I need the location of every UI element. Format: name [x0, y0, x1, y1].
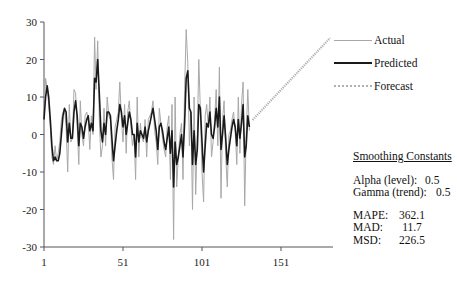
legend-item-actual: Actual: [334, 33, 405, 47]
forecast-line: [253, 38, 330, 120]
y-tick-label: 30: [26, 16, 38, 28]
stats-title: Smoothing Constants: [353, 150, 452, 163]
gamma-row: Gamma (trend): 0.5: [353, 186, 452, 199]
mape-row: MAPE: 362.1: [353, 209, 452, 222]
legend-label: Actual: [374, 34, 405, 46]
msd-row: MSD: 226.5: [353, 234, 452, 247]
axes: -30-20-100102030151101151: [22, 16, 333, 268]
y-tick-label: -10: [22, 166, 37, 178]
x-tick-label: 51: [118, 256, 129, 268]
mad-row: MAD: 11.7: [353, 221, 452, 234]
y-tick-label: 20: [26, 54, 38, 66]
predicted-line: [44, 60, 249, 188]
legend: Actual Predicted Forecast: [334, 0, 457, 100]
mad-label: MAD:: [353, 221, 393, 234]
mape-value: 362.1: [393, 209, 431, 222]
gamma-value: 0.5: [436, 186, 450, 199]
legend-item-predicted: Predicted: [334, 56, 417, 70]
legend-label: Predicted: [374, 57, 417, 69]
alpha-row: Alpha (level): 0.5: [353, 174, 452, 187]
forecast-line-swatch-icon: [334, 85, 372, 87]
y-tick-label: 0: [32, 129, 38, 141]
x-tick-label: 1: [41, 256, 47, 268]
msd-value: 226.5: [393, 234, 431, 247]
legend-label: Forecast: [374, 80, 413, 92]
y-tick-label: -30: [22, 241, 37, 253]
mape-label: MAPE:: [353, 209, 393, 222]
actual-line-swatch-icon: [334, 40, 372, 41]
mad-value: 11.7: [393, 221, 431, 234]
x-tick-label: 101: [194, 256, 211, 268]
alpha-label: Alpha (level):: [353, 174, 425, 187]
legend-item-forecast: Forecast: [334, 79, 413, 93]
msd-label: MSD:: [353, 234, 393, 247]
gamma-label: Gamma (trend):: [353, 186, 436, 199]
y-tick-label: 10: [26, 91, 38, 103]
predicted-line-swatch-icon: [334, 62, 372, 64]
y-tick-label: -20: [22, 204, 37, 216]
series-lines: [44, 30, 330, 240]
x-tick-label: 151: [273, 256, 290, 268]
alpha-value: 0.5: [425, 174, 439, 187]
smoothing-stats-panel: Smoothing Constants Alpha (level): 0.5 G…: [353, 150, 452, 246]
